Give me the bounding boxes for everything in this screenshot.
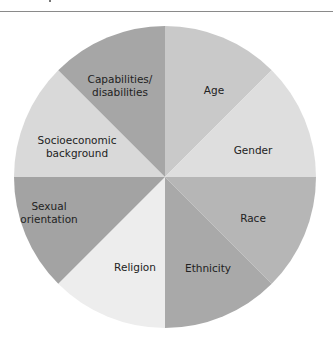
slice-label: Religion	[114, 261, 156, 273]
pie-slices	[14, 26, 316, 328]
slice-label: Race	[240, 212, 266, 224]
slice-label: Ethnicity	[185, 262, 231, 274]
slice-label: Socioeconomicbackground	[38, 134, 117, 159]
slice-label: Age	[204, 84, 224, 96]
pie-chart: AgeGenderRaceEthnicityReligionSexualorie…	[0, 0, 333, 350]
slice-label: Capabilities/disabilities	[88, 73, 153, 98]
slice-label: Gender	[234, 144, 273, 156]
